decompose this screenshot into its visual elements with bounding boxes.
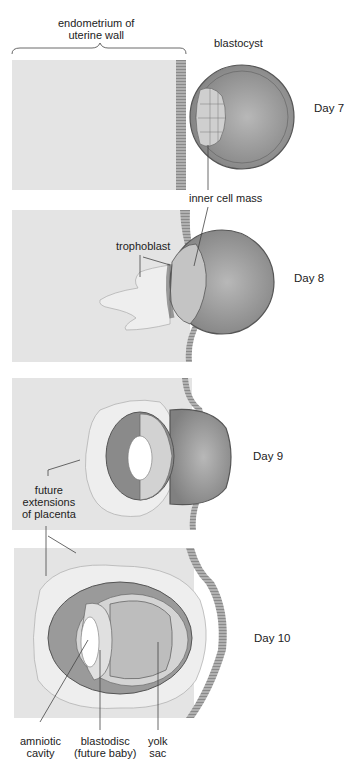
day-label-7: Day 7	[314, 102, 344, 114]
label-yolk-sac: yolk sac	[148, 735, 168, 759]
label-blastodisc: blastodisc (future baby)	[74, 735, 136, 759]
implantation-diagram	[0, 0, 359, 769]
label-inner-cell-mass: inner cell mass	[189, 192, 262, 204]
label-amniotic-cavity: amniotic cavity	[20, 735, 61, 759]
panel-day-7	[12, 60, 294, 190]
label-blastocyst: blastocyst	[214, 37, 263, 49]
day-label-8: Day 8	[294, 272, 324, 284]
endometrium-bracket	[12, 43, 186, 54]
label-trophoblast: trophoblast	[116, 240, 170, 252]
label-future-placenta: future extensions of placenta	[22, 484, 76, 520]
panel-day-8	[12, 207, 274, 362]
day-label-9: Day 9	[253, 450, 283, 462]
label-endometrium: endometrium of uterine wall	[58, 17, 134, 41]
day-label-10: Day 10	[254, 632, 290, 644]
